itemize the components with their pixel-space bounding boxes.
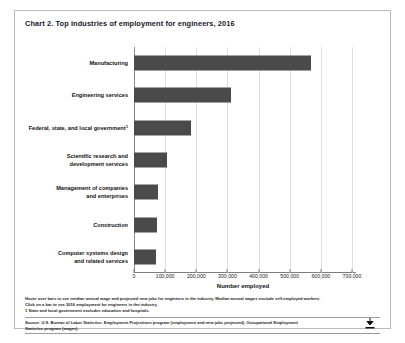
x-axis-label: Number employed [134, 283, 352, 289]
tick-label: 400,000 [249, 273, 268, 279]
tick-label: 600,000 [311, 273, 330, 279]
bar[interactable] [134, 88, 231, 103]
tick-label: 300,000 [218, 273, 237, 279]
bar[interactable] [134, 56, 311, 71]
category-label: Engineering services [16, 91, 128, 99]
note-line-3: 1 State and local government excludes ed… [25, 308, 380, 314]
category-label: Scientific research anddevelopment servi… [16, 152, 128, 168]
category-label: Manufacturing [16, 59, 128, 67]
bar-row: Scientific research anddevelopment servi… [134, 144, 352, 176]
bar-row: Manufacturing [134, 47, 352, 79]
tick-label: 200,000 [187, 273, 206, 279]
chart-panel: Chart 2. Top industries of employment fo… [14, 10, 391, 329]
category-label: Federal, state, and local government1 [16, 123, 128, 132]
chart-notes: Hover over bars to see median annual wag… [25, 296, 380, 314]
bar-row: Federal, state, and local government1 [134, 112, 352, 144]
bar[interactable] [134, 152, 167, 167]
source-line-2: Statistics program (wages). [25, 326, 380, 332]
tick-label: 700,000 [343, 273, 362, 279]
bar-row: Management of companiesand enterprises [134, 176, 352, 208]
tick-label: 0 [133, 273, 136, 279]
bar-row: Construction [134, 208, 352, 240]
gridline [352, 47, 353, 273]
tick-label: 100,000 [156, 273, 175, 279]
bar-row: Computer systems designand related servi… [134, 241, 352, 273]
bar[interactable] [134, 185, 158, 200]
bar-rows: ManufacturingEngineering servicesFederal… [134, 47, 352, 273]
category-label: Management of companiesand enterprises [16, 184, 128, 200]
category-label: Construction [16, 221, 128, 229]
download-icon[interactable] [364, 317, 376, 331]
bar[interactable] [134, 120, 191, 135]
tick-label: 500,000 [280, 273, 299, 279]
bar[interactable] [134, 217, 157, 232]
category-label: Computer systems designand related servi… [16, 249, 128, 265]
plot-area: ManufacturingEngineering servicesFederal… [134, 47, 352, 273]
chart-source: Source: U.S. Bureau of Labor Statistics,… [25, 317, 380, 334]
bar[interactable] [134, 249, 156, 264]
bar-row: Engineering services [134, 79, 352, 111]
chart-title: Chart 2. Top industries of employment fo… [25, 19, 235, 28]
